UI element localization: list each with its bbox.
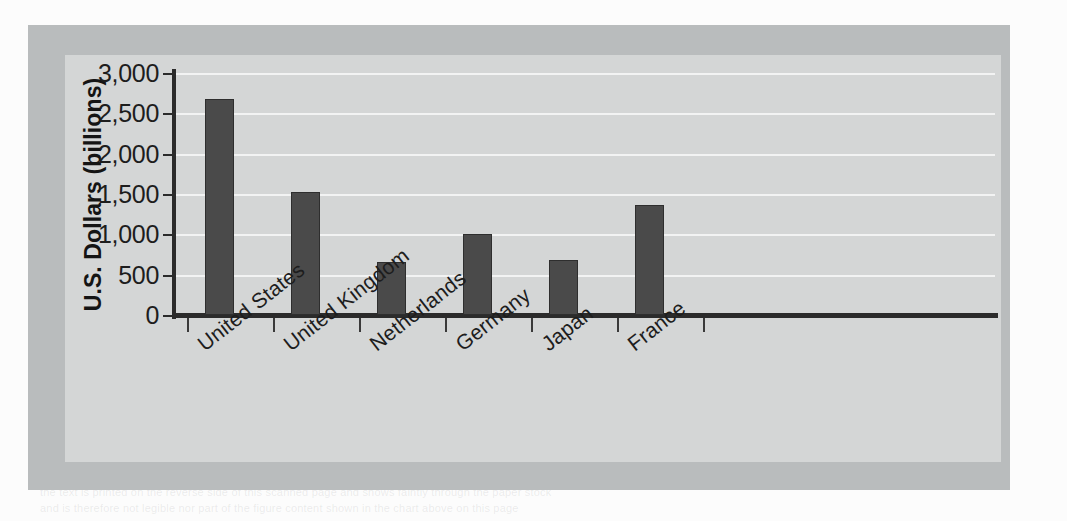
y-axis-tick [163, 154, 172, 156]
y-axis-tick [163, 194, 172, 196]
x-axis-tick [187, 318, 189, 332]
y-axis-line [172, 69, 176, 319]
x-axis-tick [617, 318, 619, 332]
x-axis-tick [359, 318, 361, 332]
y-axis-tick [163, 315, 172, 317]
bar [635, 205, 664, 315]
x-axis-tick [273, 318, 275, 332]
y-axis-tick [163, 73, 172, 75]
y-axis-tick-label: 2,500 [98, 99, 159, 128]
bar [205, 99, 234, 315]
chart-panel: U.S. Dollars (billions) 05001,0001,5002,… [65, 55, 1001, 462]
bar [291, 192, 320, 315]
y-axis-tick-label: 1,000 [98, 220, 159, 249]
y-axis-tick-label: 500 [118, 260, 159, 289]
x-axis-tick [445, 318, 447, 332]
y-axis-tick [163, 275, 172, 277]
y-axis-tick-label: 3,000 [98, 59, 159, 88]
gridline [172, 154, 995, 156]
page-showthrough-line-2: and is therefore not legible nor part of… [40, 502, 1047, 514]
scanned-page: the text is printed on the reverse side … [0, 0, 1067, 521]
y-axis-tick [163, 113, 172, 115]
y-axis-tick [163, 234, 172, 236]
gridline [172, 73, 995, 75]
y-axis-tick-label: 1,500 [98, 180, 159, 209]
y-axis-tick-label: 0 [145, 301, 159, 330]
bar [463, 234, 492, 315]
figure-frame: U.S. Dollars (billions) 05001,0001,5002,… [28, 25, 1010, 490]
gridline [172, 113, 995, 115]
plot-area: 05001,0001,5002,0002,5003,000 United Sta… [172, 73, 995, 315]
x-axis-tick [531, 318, 533, 332]
y-axis-tick-label: 2,000 [98, 139, 159, 168]
x-axis-tick [703, 318, 705, 332]
